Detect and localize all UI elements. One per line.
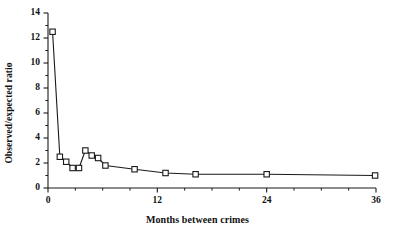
data-point-marker (103, 163, 108, 168)
x-axis-tick-label: 12 (145, 195, 169, 205)
y-axis-tick-label: 0 (18, 182, 40, 192)
data-point-marker (64, 159, 69, 164)
data-point-marker (83, 148, 88, 153)
x-axis-tick-label: 0 (36, 195, 60, 205)
y-axis-tick-label: 6 (18, 107, 40, 117)
data-point-marker (163, 170, 168, 175)
chart-figure: Observed/expected ratio Months between c… (0, 0, 395, 236)
x-axis-tick-label: 24 (255, 195, 279, 205)
y-axis-tick-label: 12 (18, 32, 40, 42)
series-line (53, 32, 376, 176)
data-point-marker (50, 29, 55, 34)
x-axis-tick-label: 36 (364, 195, 388, 205)
y-axis-tick-label: 4 (18, 132, 40, 142)
y-axis-tick-label: 2 (18, 157, 40, 167)
data-point-marker (89, 153, 94, 158)
data-point-marker (372, 173, 377, 178)
data-point-marker (70, 165, 75, 170)
data-series (50, 29, 378, 178)
data-point-marker (57, 154, 62, 159)
data-point-marker (76, 165, 81, 170)
data-point-marker (264, 172, 269, 177)
axes (44, 13, 377, 193)
y-axis-tick-label: 10 (18, 57, 40, 67)
data-point-marker (193, 172, 198, 177)
data-point-marker (95, 155, 100, 160)
y-axis-tick-label: 8 (18, 82, 40, 92)
y-axis-tick-label: 14 (18, 7, 40, 17)
data-point-marker (132, 167, 137, 172)
